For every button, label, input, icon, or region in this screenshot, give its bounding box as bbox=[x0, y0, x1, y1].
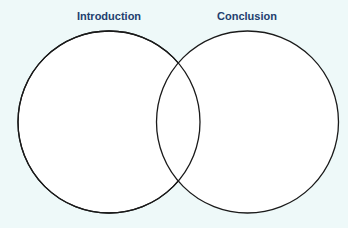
set-label-conclusion: Conclusion bbox=[217, 10, 277, 22]
venn-circle-conclusion-fill bbox=[157, 31, 339, 213]
venn-diagram bbox=[0, 0, 348, 228]
set-label-introduction: Introduction bbox=[77, 10, 141, 22]
